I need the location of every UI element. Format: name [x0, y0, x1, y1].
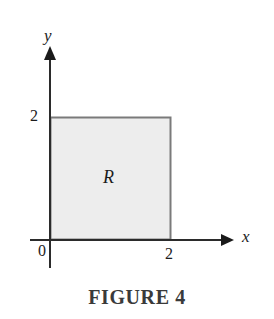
figure-caption: FIGURE 4 [0, 286, 274, 309]
x-axis-label: x [242, 228, 250, 245]
x-axis-tick-2: 2 [165, 246, 173, 262]
y-axis-tick-2: 2 [30, 108, 38, 124]
y-axis-arrow-icon [44, 46, 56, 60]
x-axis-arrow-icon [221, 234, 234, 246]
figure-container: y x 2 2 0 R FIGURE 4 [0, 0, 274, 319]
origin-label: 0 [38, 243, 46, 259]
coordinate-plot [0, 0, 274, 319]
y-axis-label: y [44, 27, 52, 44]
region-label-r: R [103, 168, 114, 186]
